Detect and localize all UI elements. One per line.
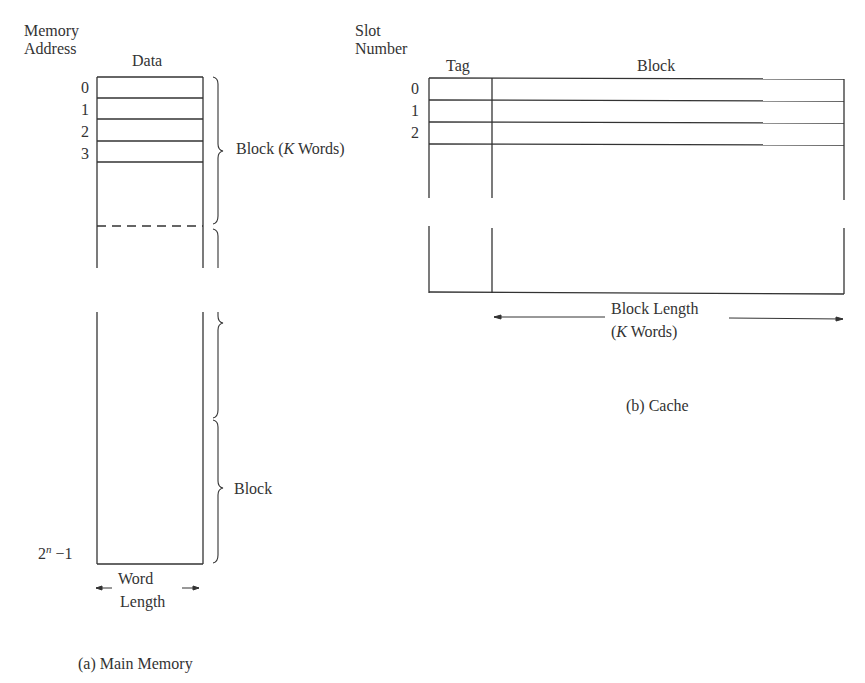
tag-header: Tag [446, 57, 470, 75]
address-3: 3 [60, 145, 89, 163]
block-braces [213, 77, 223, 563]
address-2: 2 [60, 123, 89, 141]
last-address: 2n −1 [38, 540, 73, 563]
slot-1: 1 [390, 102, 419, 120]
slot-number-header: Slot Number [355, 22, 407, 58]
cache-box [429, 78, 844, 294]
main-memory-box [97, 77, 203, 564]
block-header: Block [637, 57, 675, 75]
main-memory-caption: (a) Main Memory [78, 655, 193, 673]
cache-caption: (b) Cache [626, 397, 689, 415]
length-label: Length [120, 593, 165, 611]
word-label: Word [118, 570, 153, 588]
memory-address-header: Memory Address [24, 22, 79, 58]
address-0: 0 [60, 79, 89, 97]
block-k-words-label: Block (K Words) [236, 140, 345, 158]
address-1: 1 [60, 101, 89, 119]
block-length-label: Block Length [611, 300, 699, 318]
data-header: Data [132, 52, 162, 70]
block-label: Block [234, 480, 272, 498]
k-words-label: (K Words) [611, 323, 677, 341]
slot-0: 0 [390, 80, 419, 98]
slot-2: 2 [390, 124, 419, 142]
